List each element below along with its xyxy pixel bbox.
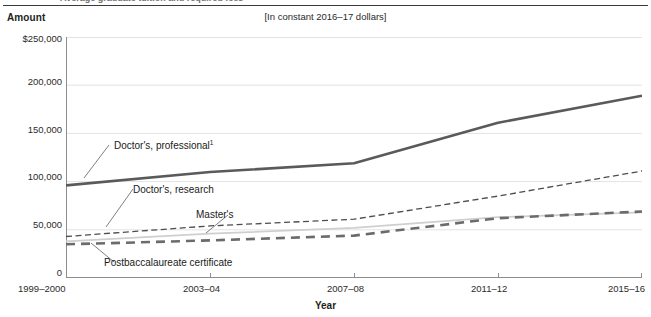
x-axis-title: Year: [0, 300, 651, 311]
leader-doctors-professional: [84, 145, 109, 178]
series-label-masters: Master's: [196, 209, 233, 220]
callout-leader-lines: [84, 145, 228, 262]
series-label-doctors-professional-footnote: 1: [210, 139, 214, 146]
y-tick-200000: 200,000: [0, 76, 62, 87]
chart-svg: [66, 37, 642, 278]
series-label-postbacc: Postbaccalaureate certificate: [104, 257, 232, 268]
leader-doctors-research: [106, 189, 133, 227]
series-label-doctors-professional-text: Doctor's, professional: [114, 140, 210, 151]
clipped-figure-title-text: Average graduate tuition and required fe…: [60, 0, 243, 3]
x-tick-label-2011-12: 2011–12: [471, 283, 507, 294]
units-note: [In constant 2016–17 dollars]: [0, 11, 651, 22]
x-tick-label-1999-2000: 1999–2000: [18, 283, 66, 294]
series-label-doctors-research: Doctor's, research: [133, 184, 214, 195]
x-tick-label-2007-08: 2007–08: [327, 283, 364, 294]
series-line-doctors-research: [66, 171, 642, 237]
y-tick-50000: 50,000: [0, 219, 62, 230]
header-divider-rule: [3, 5, 648, 6]
y-tick-150000: 150,000: [0, 124, 62, 135]
y-tick-0: 0: [0, 267, 62, 278]
series-label-doctors-professional: Doctor's, professional1: [114, 140, 213, 151]
x-tick-label-2015-16: 2015–16: [608, 283, 645, 294]
clipped-figure-title: Average graduate tuition and required fe…: [0, 0, 651, 4]
chart-plot-area: [66, 37, 642, 278]
y-tick-100000: 100,000: [0, 171, 62, 182]
series-line-masters: [66, 212, 642, 241]
gridlines: [66, 38, 642, 230]
y-tick-250000: $250,000: [0, 33, 62, 44]
x-tick-label-2003-04: 2003–04: [183, 283, 220, 294]
